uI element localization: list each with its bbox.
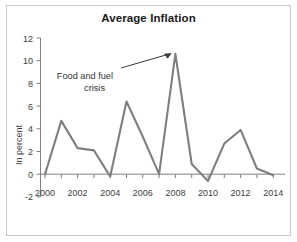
annotation-arrow xyxy=(121,54,172,69)
x-tick-label: 2004 xyxy=(100,188,120,198)
x-tick-label: 2008 xyxy=(165,188,185,198)
y-tick-label: 2 xyxy=(28,147,33,157)
x-tick-label: 2000 xyxy=(35,188,55,198)
x-axis-tick-labels: 2000 2002 2004 2006 2008 2010 2012 2014 xyxy=(35,188,283,198)
y-tick-label: 10 xyxy=(23,56,33,66)
y-tick-label: -2 xyxy=(25,192,33,202)
y-axis-title: In percent xyxy=(14,124,24,165)
y-tick-label: 0 xyxy=(28,170,33,180)
y-axis-ticks xyxy=(37,38,41,197)
x-tick-label: 2014 xyxy=(263,188,283,198)
x-tick-label: 2006 xyxy=(133,188,153,198)
x-tick-label: 2002 xyxy=(68,188,88,198)
y-tick-label: 8 xyxy=(28,79,33,89)
chart-figure: Average Inflation 12 10 8 6 4 2 0 -2 In xyxy=(0,0,297,242)
x-tick-label: 2010 xyxy=(198,188,218,198)
y-tick-label: 12 xyxy=(23,34,33,44)
chart-plot-area: 12 10 8 6 4 2 0 -2 In percent xyxy=(0,0,297,242)
annotation-label: Food and fuel crisis xyxy=(57,71,113,93)
x-tick-label: 2012 xyxy=(231,188,251,198)
y-tick-label: 6 xyxy=(28,102,33,112)
y-tick-label: 4 xyxy=(28,124,33,134)
annotation-line-1: Food and fuel xyxy=(57,71,113,81)
y-axis-tick-labels: 12 10 8 6 4 2 0 -2 xyxy=(23,34,33,203)
annotation-line-2: crisis xyxy=(84,83,105,93)
